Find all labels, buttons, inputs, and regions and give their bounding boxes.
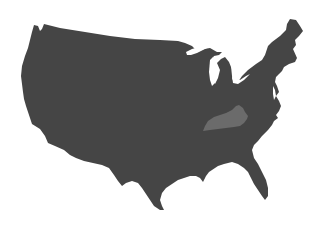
us-map: Contiguous United States Kentucky bbox=[0, 0, 323, 228]
map-svg bbox=[0, 0, 323, 228]
